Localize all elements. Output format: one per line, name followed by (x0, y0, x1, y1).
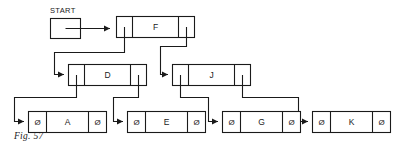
figure-caption: Fig. 57 (14, 131, 44, 141)
arrowhead-j-right-to-k (302, 119, 308, 125)
node-j-data-label: J (209, 70, 213, 80)
arrowhead-d-right-to-e (117, 119, 123, 125)
arrowhead-j-left-to-g (212, 119, 218, 125)
node-k-data-label: K (349, 117, 355, 127)
node-f-data-label: F (153, 22, 158, 32)
node-j: J (173, 65, 251, 86)
arrowhead-f-left-to-d (58, 72, 64, 78)
arrowhead-start-to-f (104, 26, 110, 32)
node-e: Ø E Ø (128, 112, 206, 133)
figure-binary-tree-diagram: START F D (0, 0, 411, 156)
node-e-data-label: E (164, 117, 170, 127)
node-d-data-label: D (104, 70, 110, 80)
node-a-left-null-symbol: Ø (34, 118, 40, 127)
node-d: D (69, 65, 147, 86)
arrowhead-d-left-to-a (18, 119, 24, 125)
start-group: START (50, 6, 110, 39)
node-a-right-null-symbol: Ø (94, 118, 100, 127)
node-g-data-label: G (258, 117, 265, 127)
node-k-left-null-symbol: Ø (318, 118, 324, 127)
node-g-right-null-symbol: Ø (288, 118, 294, 127)
node-a: Ø A Ø (29, 112, 107, 133)
node-a-data-label: A (65, 117, 71, 127)
diagram-canvas: START F D (0, 0, 411, 156)
node-e-right-null-symbol: Ø (193, 118, 199, 127)
node-k-right-null-symbol: Ø (378, 118, 384, 127)
start-label: START (50, 6, 76, 15)
arrowhead-f-right-to-j (162, 72, 168, 78)
node-f: F (117, 17, 195, 38)
node-g: Ø G Ø (223, 112, 301, 133)
node-k: Ø K Ø (313, 112, 391, 133)
node-e-left-null-symbol: Ø (133, 118, 139, 127)
node-g-left-null-symbol: Ø (228, 118, 234, 127)
